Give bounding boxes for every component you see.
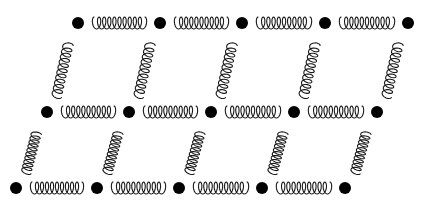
diagonal-spring: [299, 43, 320, 99]
horizontal-spring: [30, 182, 83, 194]
diagonal-spring: [185, 132, 205, 175]
horizontal-spring: [225, 106, 280, 118]
mass-node: [91, 182, 103, 194]
mass-node: [319, 17, 331, 29]
diagonal-spring: [52, 43, 73, 99]
mass-node: [173, 182, 185, 194]
horizontal-spring: [174, 17, 228, 29]
springs-layer: [22, 17, 403, 194]
diagonal-spring: [351, 132, 371, 175]
horizontal-spring: [339, 17, 394, 29]
diagonal-spring: [134, 43, 155, 99]
horizontal-spring: [193, 182, 248, 194]
diagonal-spring: [216, 43, 237, 99]
diagonal-spring: [22, 132, 42, 174]
mass-node: [154, 17, 166, 29]
horizontal-spring: [308, 106, 363, 118]
diagonal-spring: [382, 43, 403, 99]
mass-node: [41, 106, 53, 118]
horizontal-spring: [143, 106, 197, 118]
horizontal-spring: [92, 17, 146, 29]
horizontal-spring: [111, 182, 165, 194]
mass-node: [123, 106, 135, 118]
mass-node: [339, 182, 351, 194]
mass-node: [72, 17, 84, 29]
mass-node: [371, 106, 383, 118]
mass-node: [402, 17, 414, 29]
mass-node: [256, 182, 268, 194]
mass-node: [288, 106, 300, 118]
diagonal-spring: [268, 132, 288, 175]
horizontal-spring: [256, 17, 311, 29]
spring-mass-lattice-diagram: [0, 0, 422, 207]
mass-node: [10, 182, 22, 194]
mass-node: [205, 106, 217, 118]
diagonal-spring: [103, 132, 123, 175]
mass-node: [236, 17, 248, 29]
horizontal-spring: [276, 182, 331, 194]
horizontal-spring: [61, 106, 115, 118]
